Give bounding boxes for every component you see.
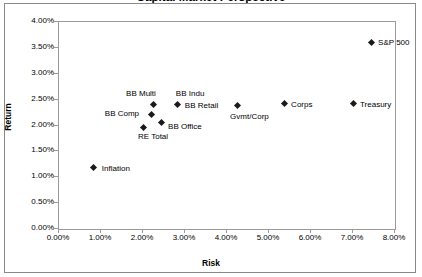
data-point-label: Inflation — [102, 164, 130, 173]
data-point-label: BB Office — [168, 122, 202, 131]
data-point-marker[interactable] — [281, 100, 288, 107]
data-point-marker[interactable] — [234, 102, 241, 109]
y-axis-tick-label: 2.00% — [31, 121, 54, 129]
data-point-marker[interactable] — [148, 111, 155, 118]
data-point-marker[interactable] — [174, 101, 181, 108]
y-axis-tick-label: 1.50% — [31, 146, 54, 154]
data-point-label: S&P 500 — [378, 38, 409, 47]
chart-title: Capital Market Perspective — [0, 0, 422, 3]
data-point-label: Treasury — [360, 100, 391, 109]
data-point-label: BB Indu — [176, 89, 204, 98]
data-point-marker[interactable] — [150, 101, 157, 108]
plot-area: S&P 500TreasuryCorpsGvmt/CorpBB InduBB R… — [58, 21, 396, 230]
chart-screenshot: Capital Market Perspective Return Risk 0… — [0, 0, 422, 277]
data-point-label: BB Retail — [185, 101, 218, 110]
data-point-label: Corps — [291, 100, 312, 109]
y-axis-tick-label: 2.50% — [31, 95, 54, 103]
x-axis-title: Risk — [0, 258, 422, 268]
data-point-marker[interactable] — [90, 164, 97, 171]
data-point-marker[interactable] — [158, 119, 165, 126]
data-point-marker[interactable] — [368, 39, 375, 46]
data-point-marker[interactable] — [349, 100, 356, 107]
x-axis-tick-label: 8.00% — [369, 234, 419, 242]
y-axis-tick-label: 4.00% — [31, 17, 54, 25]
data-point-label: RE Total — [138, 132, 168, 141]
y-axis-tick-label: 0.00% — [31, 224, 54, 232]
data-point-marker[interactable] — [139, 124, 146, 131]
y-axis-tick-label: 3.50% — [31, 43, 54, 51]
data-point-label: BB Multi — [126, 89, 156, 98]
y-axis-title: Return — [3, 87, 13, 147]
y-axis-tick-label: 0.50% — [31, 198, 54, 206]
y-axis-tick-label: 1.00% — [31, 172, 54, 180]
data-point-label: Gvmt/Corp — [230, 112, 269, 121]
y-axis-tick-label: 3.00% — [31, 69, 54, 77]
data-point-label: BB Comp — [105, 109, 139, 118]
